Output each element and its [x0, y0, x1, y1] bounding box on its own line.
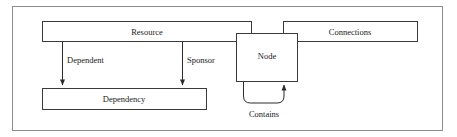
entity-label-resource: Resource: [131, 28, 163, 37]
edge-contains-loop: [244, 82, 285, 103]
edge-label-dependent: Dependent: [67, 56, 104, 65]
entity-label-connections: Connections: [329, 28, 372, 37]
diagram-graphics: [0, 0, 457, 137]
edge-label-contains: Contains: [249, 110, 279, 119]
diagram-canvas: Resource Connections Node Dependency Dep…: [0, 0, 457, 137]
edge-label-sponsor: Sponsor: [187, 56, 215, 65]
entity-label-node: Node: [258, 52, 276, 61]
entity-label-dependency: Dependency: [103, 95, 145, 104]
